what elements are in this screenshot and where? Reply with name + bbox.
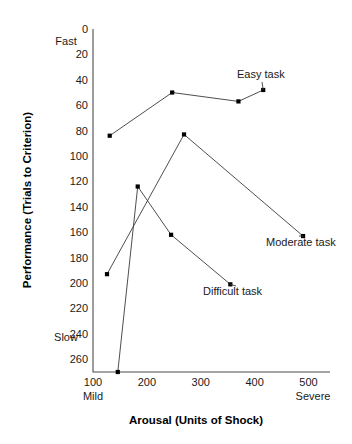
y-axis-anchor-slow: Slow <box>54 331 78 343</box>
data-point-difficult-task <box>116 370 120 374</box>
y-tick-label: 180 <box>70 252 88 264</box>
series-label-difficult-task: Difficult task <box>203 285 263 297</box>
series-label-easy-task: Easy task <box>237 68 285 80</box>
y-tick-label: 80 <box>76 125 88 137</box>
x-tick-label: 100 <box>84 376 102 388</box>
series-label-moderate-task: Moderate task <box>266 236 336 248</box>
x-axis-anchor-mild: Mild <box>83 390 103 402</box>
chart-axes <box>93 29 330 372</box>
y-axis-anchor-fast: Fast <box>55 35 76 47</box>
y-tick-label: 160 <box>70 226 88 238</box>
label-leader-lines <box>230 82 303 286</box>
x-tick-label: 200 <box>138 376 156 388</box>
data-point-moderate-task <box>182 132 186 136</box>
y-tick-label: 220 <box>70 302 88 314</box>
y-tick-label: 140 <box>70 201 88 213</box>
x-tick-label: 400 <box>245 376 263 388</box>
data-point-easy-task <box>108 134 112 138</box>
chart-svg: 020406080100120140160180200220240260 100… <box>0 0 352 444</box>
data-point-moderate-task <box>105 272 109 276</box>
y-tick-label: 0 <box>82 23 88 35</box>
chart-figure: 020406080100120140160180200220240260 100… <box>0 0 352 444</box>
x-axis-title: Arousal (Units of Shock) <box>129 414 263 426</box>
y-tick-label: 100 <box>70 150 88 162</box>
x-axis-anchor-severe: Severe <box>296 390 331 402</box>
series-line-moderate-task <box>107 134 303 274</box>
y-tick-label: 120 <box>70 175 88 187</box>
data-point-difficult-task <box>136 184 140 188</box>
y-axis-title: Performance (Trials to Criterion) <box>21 112 33 289</box>
data-point-difficult-task <box>169 233 173 237</box>
series-line-easy-task <box>110 90 264 136</box>
data-point-easy-task <box>236 99 240 103</box>
x-axis-tick-labels: 100200300400500 <box>84 376 318 388</box>
x-tick-label: 300 <box>192 376 210 388</box>
y-tick-label: 60 <box>76 99 88 111</box>
y-tick-label: 260 <box>70 353 88 365</box>
series-line-difficult-task <box>118 187 231 372</box>
data-point-easy-task <box>170 90 174 94</box>
y-tick-label: 200 <box>70 277 88 289</box>
y-tick-label: 20 <box>76 48 88 60</box>
y-tick-label: 40 <box>76 74 88 86</box>
y-axis-tick-labels: 020406080100120140160180200220240260 <box>70 23 88 365</box>
data-series-layer <box>105 88 305 374</box>
x-tick-label: 500 <box>299 376 317 388</box>
